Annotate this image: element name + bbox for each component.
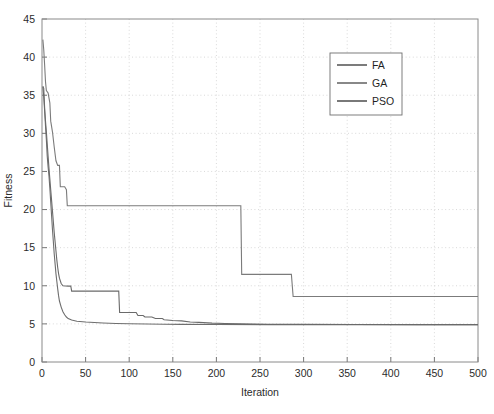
y-tick-label: 0	[29, 356, 35, 368]
fitness-convergence-chart: 0501001502002503003504004505000510152025…	[0, 0, 494, 414]
y-tick-label: 40	[23, 51, 35, 63]
y-tick-label: 45	[23, 13, 35, 25]
legend-label-fa: FA	[372, 59, 385, 71]
x-axis-title: Iteration	[241, 386, 279, 398]
legend-label-pso: PSO	[372, 95, 394, 107]
x-tick-label: 450	[426, 367, 444, 379]
y-tick-label: 30	[23, 127, 35, 139]
y-axis-title: Fitness	[2, 174, 14, 208]
x-tick-label: 200	[208, 367, 226, 379]
x-tick-label: 50	[80, 367, 92, 379]
chart-background	[0, 0, 494, 414]
y-tick-label: 10	[23, 280, 35, 292]
x-tick-label: 0	[39, 367, 45, 379]
y-tick-label: 25	[23, 165, 35, 177]
x-tick-label: 150	[164, 367, 182, 379]
y-tick-label: 15	[23, 241, 35, 253]
x-tick-label: 500	[469, 367, 487, 379]
x-tick-label: 100	[120, 367, 138, 379]
x-tick-label: 300	[295, 367, 313, 379]
x-tick-label: 250	[251, 367, 269, 379]
y-tick-label: 5	[29, 318, 35, 330]
y-tick-label: 20	[23, 203, 35, 215]
legend-label-ga: GA	[372, 77, 387, 89]
x-tick-label: 400	[382, 367, 400, 379]
y-tick-label: 35	[23, 89, 35, 101]
x-tick-label: 350	[338, 367, 356, 379]
legend: FAGAPSO	[330, 53, 402, 115]
chart-canvas: 0501001502002503003504004505000510152025…	[0, 0, 494, 414]
